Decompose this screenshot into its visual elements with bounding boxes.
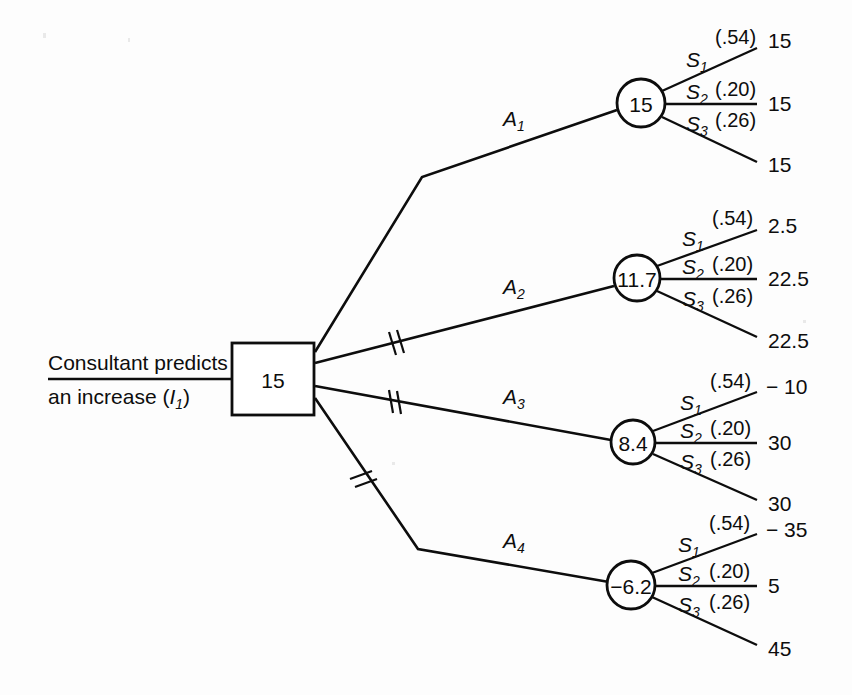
outcome-a4-s2-state: S2: [678, 562, 700, 589]
scan-speckle: [128, 38, 130, 42]
caption-line-1: Consultant predicts: [48, 351, 228, 374]
outcome-a3-s2-state: S2: [680, 419, 702, 446]
branch-a2-edge[interactable]: [315, 286, 614, 363]
outcome-a1-s3-payoff: 15: [768, 153, 791, 176]
branch-a3-edge[interactable]: [315, 386, 611, 440]
outcome-a4-s3-payoff: 45: [768, 637, 791, 660]
branch-a2-label: A2: [501, 275, 525, 302]
outcome-a3-s3-probability: (.26): [710, 448, 751, 470]
chance-node-a1-value: 15: [629, 93, 652, 116]
branch-a2[interactable]: A2: [315, 275, 614, 363]
branch-a4[interactable]: A4: [315, 398, 609, 582]
outcome-a2-s2-state: S2: [682, 255, 704, 282]
caption-block: Consultant predicts an increase (I1): [48, 351, 232, 412]
outcome-a4-s1-state: S1: [678, 533, 700, 560]
chance-node-a2[interactable]: 11.7: [614, 255, 660, 301]
outcome-a1-s2-state: S2: [686, 80, 708, 107]
scan-speckle: [803, 320, 806, 323]
decision-tree-diagram: Consultant predicts an increase (I1) 15 …: [0, 0, 852, 695]
decision-node[interactable]: 15: [232, 343, 314, 415]
caption-line-2-suffix: ): [183, 385, 190, 408]
chance-node-a1[interactable]: 15: [617, 79, 665, 127]
outcome-a3-s3-payoff: 30: [768, 492, 791, 515]
branch-a4-outcomes: S1 (.54) − 35 S2 (.20) 5 S3 (.26) 45: [652, 512, 807, 660]
outcome-a2-s1-state: S1: [682, 227, 704, 254]
chance-node-a4[interactable]: −6.2: [607, 561, 655, 609]
outcome-a4-s2-probability: (.20): [709, 560, 750, 582]
outcome-a3-s3-state: S3: [680, 450, 702, 477]
outcome-a4-s1-payoff: − 35: [766, 518, 807, 541]
decision-node-value: 15: [261, 369, 284, 392]
outcome-a2-s2-probability: (.20): [712, 253, 753, 275]
outcome-a1-s1-payoff: 15: [768, 29, 791, 52]
outcome-a1-s3-state: S3: [686, 112, 708, 139]
outcome-a3-s1-state: S1: [680, 391, 702, 418]
outcome-a4-s2-payoff: 5: [768, 574, 780, 597]
outcome-a3-s2-probability: (.20): [710, 417, 751, 439]
branch-a4-edge[interactable]: [315, 398, 609, 582]
branch-a3-prune-mark: [389, 390, 401, 414]
outcome-a2-s1-probability: (.54): [712, 207, 753, 229]
chance-node-a3-value: 8.4: [618, 432, 648, 455]
scan-speckle: [43, 33, 46, 38]
outcome-a3-s1-probability: (.54): [710, 370, 751, 392]
branch-a1-outcomes: S1 (.54) 15 S2 (.20) 15 S3 (.26) 15: [662, 26, 791, 176]
caption-line-2: an increase (I1): [48, 385, 190, 412]
outcome-a4-s3-probability: (.26): [709, 591, 750, 613]
outcome-a2-s3-probability: (.26): [712, 285, 753, 307]
branch-a1-edge[interactable]: [315, 110, 617, 352]
outcome-a1-s2-probability: (.20): [715, 78, 756, 100]
branch-a1-label: A1: [501, 107, 525, 134]
branch-a4-label: A4: [501, 529, 525, 556]
chance-node-a2-value: 11.7: [617, 268, 656, 291]
outcome-a1-s2-payoff: 15: [768, 92, 791, 115]
chance-node-a3[interactable]: 8.4: [611, 420, 655, 464]
outcome-a3-s2-payoff: 30: [768, 431, 791, 454]
branch-a3-outcomes: S1 (.54) − 10 S2 (.20) 30 S3 (.26) 30: [653, 370, 807, 515]
chance-node-a4-value: −6.2: [610, 575, 651, 598]
caption-information-subscript: 1: [175, 396, 183, 412]
branch-a3[interactable]: A3: [315, 385, 611, 440]
outcome-a3-s1-payoff: − 10: [766, 375, 807, 398]
outcome-a2-s3-state: S3: [682, 287, 704, 314]
caption-line-2-prefix: an increase (: [48, 385, 169, 408]
branch-a1[interactable]: A1: [315, 107, 617, 352]
outcome-a4-s1-probability: (.54): [709, 512, 750, 534]
outcome-a1-s1-state: S1: [686, 48, 708, 75]
outcome-a1-s3-probability: (.26): [715, 109, 756, 131]
scan-speckle: [392, 462, 395, 465]
branch-a2-outcomes: S1 (.54) 2.5 S2 (.20) 22.5 S3 (.26) 22.5: [657, 207, 809, 352]
outcome-a2-s3-payoff: 22.5: [768, 329, 809, 352]
outcome-a1-s1-probability: (.54): [715, 26, 756, 48]
outcome-a2-s1-payoff: 2.5: [768, 214, 797, 237]
outcome-a2-s2-payoff: 22.5: [768, 267, 809, 290]
branch-a3-label: A3: [501, 385, 525, 412]
outcome-a4-s3-state: S3: [678, 593, 700, 620]
